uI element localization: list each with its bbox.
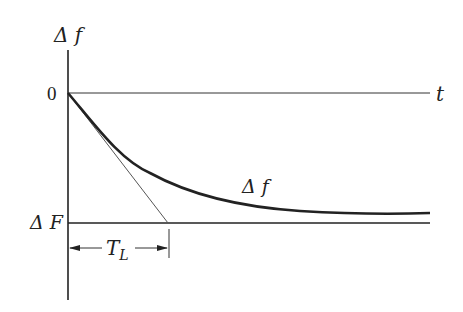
frequency-response-diagram: Δ f 0 t Δ F Δ f TL xyxy=(0,0,463,312)
time-constant-label: TL xyxy=(106,236,129,263)
arrowhead-right-icon xyxy=(157,245,168,251)
arrowhead-left-icon xyxy=(69,245,80,251)
x-axis-label: t xyxy=(436,82,445,106)
y-axis-label: Δ f xyxy=(53,23,86,47)
zero-label: 0 xyxy=(47,83,57,104)
steady-state-label: Δ F xyxy=(29,211,64,233)
curve-label: Δ f xyxy=(241,175,272,197)
